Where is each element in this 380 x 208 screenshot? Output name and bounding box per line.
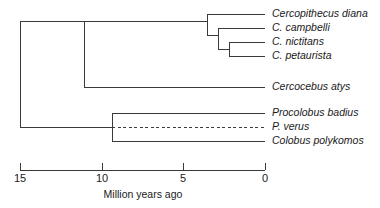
axis-tick-label-0: 0 <box>262 172 268 184</box>
tip-label-c-petaurista: C. petaurista <box>272 49 332 61</box>
time-axis: 15 10 5 0 Million years ago <box>14 163 268 200</box>
axis-title: Million years ago <box>104 188 183 200</box>
tip-label-colobus-polykomos: Colobus polykomos <box>272 134 364 146</box>
axis-tick-label-10: 10 <box>96 172 108 184</box>
tip-label-cercopithecus-diana: Cercopithecus diana <box>272 7 368 19</box>
tip-label-c-nictitans: C. nictitans <box>272 35 325 47</box>
tree-canvas: Cercopithecus diana C. campbelli C. nict… <box>0 0 380 208</box>
axis-tick-label-15: 15 <box>14 172 26 184</box>
tip-label-p-verus: P. verus <box>272 120 310 132</box>
tip-labels: Cercopithecus diana C. campbelli C. nict… <box>272 7 368 146</box>
axis-tick-label-5: 5 <box>180 172 186 184</box>
tip-label-procolobus-badius: Procolobus badius <box>272 106 359 118</box>
tree-branches <box>20 14 265 141</box>
tip-label-cercocebus-atys: Cercocebus atys <box>272 80 351 92</box>
tip-label-c-campbelli: C. campbelli <box>272 21 330 33</box>
phylogenetic-tree-figure: Cercopithecus diana C. campbelli C. nict… <box>0 0 380 208</box>
